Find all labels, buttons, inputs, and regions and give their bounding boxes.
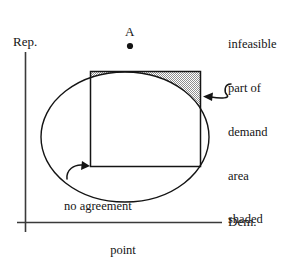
no-agreement-annotation: no agreement point	[64, 170, 174, 261]
point-a-label: A	[125, 25, 134, 38]
infeasible-region-shading	[90, 71, 201, 167]
infeasible-annotation-line-1: infeasible	[228, 37, 277, 52]
infeasible-callout-arrow	[203, 84, 231, 101]
no-agreement-annotation-line-2: point	[64, 243, 174, 258]
no-agreement-annotation-line-1: no agreement	[64, 199, 174, 214]
infeasible-annotation: infeasible part of demand area shaded	[228, 8, 277, 256]
infeasible-annotation-line-5: shaded	[228, 212, 277, 227]
point-a-marker	[127, 43, 133, 49]
y-axis-label: Rep.	[13, 35, 37, 48]
infeasible-annotation-line-2: part of	[228, 81, 277, 96]
infeasible-annotation-line-4: area	[228, 169, 277, 184]
infeasible-annotation-line-3: demand	[228, 125, 277, 140]
